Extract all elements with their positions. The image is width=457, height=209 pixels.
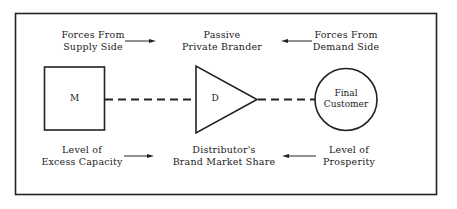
arrow-prosperity-to-share [282, 154, 316, 158]
label-excess-capacity: Level of Excess Capacity [40, 144, 124, 167]
label-passive-line1: Passive [174, 29, 270, 41]
label-brand-share-line1: Distributor's [170, 144, 278, 156]
customer-label-line1: Final [315, 88, 377, 99]
label-excess-capacity-line1: Level of [40, 144, 124, 156]
label-supply-forces-line1: Forces From [60, 29, 126, 41]
diagram-canvas: Forces From Supply Side Passive Private … [0, 0, 457, 209]
arrow-demand-to-brander [281, 39, 312, 43]
customer-label-line2: Customer [315, 99, 377, 110]
distributor-label: D [203, 93, 227, 104]
label-demand-forces-line2: Demand Side [310, 41, 382, 53]
label-brand-share-line2: Brand Market Share [170, 156, 278, 168]
label-supply-forces: Forces From Supply Side [60, 29, 126, 52]
label-demand-forces-line1: Forces From [310, 29, 382, 41]
label-prosperity-line1: Level of [318, 144, 380, 156]
label-brand-market-share: Distributor's Brand Market Share [170, 144, 278, 167]
label-demand-forces: Forces From Demand Side [310, 29, 382, 52]
arrow-supply-to-brander [125, 39, 156, 43]
label-passive-private-brander: Passive Private Brander [174, 29, 270, 52]
arrow-capacity-to-share [124, 154, 154, 158]
customer-label: Final Customer [315, 88, 377, 110]
label-supply-forces-line2: Supply Side [60, 41, 126, 53]
manufacturer-label: M [44, 93, 105, 104]
label-prosperity: Level of Prosperity [318, 144, 380, 167]
label-prosperity-line2: Prosperity [318, 156, 380, 168]
label-passive-line2: Private Brander [174, 41, 270, 53]
label-excess-capacity-line2: Excess Capacity [40, 156, 124, 168]
